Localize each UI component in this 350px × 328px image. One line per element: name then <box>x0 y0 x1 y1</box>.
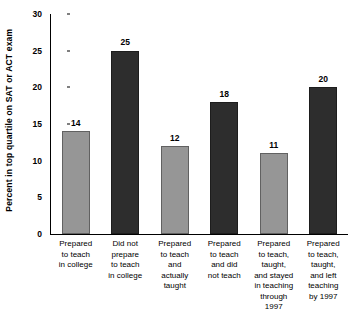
y-axis-tick-label: 0 <box>37 230 42 239</box>
bar-slot: 20 <box>299 14 349 234</box>
y-axis-tick-label: 20 <box>33 83 42 92</box>
bar[interactable] <box>111 51 139 234</box>
y-axis-tick-labels: 051015202530 <box>20 0 46 240</box>
x-axis-category-label: Prepared to teach, taught, and stayed in… <box>249 239 299 313</box>
bar[interactable] <box>260 153 288 234</box>
x-axis-category-label: Prepared to teach in college <box>51 239 101 271</box>
x-axis-category-labels: Prepared to teach in collegeDid not prep… <box>51 239 348 327</box>
bar[interactable] <box>210 102 238 234</box>
bar[interactable] <box>62 131 90 234</box>
bar[interactable] <box>161 146 189 234</box>
y-axis-tick-label: 15 <box>33 120 42 129</box>
bars-layer: 142512181120 <box>51 14 348 234</box>
bar-slot: 18 <box>200 14 250 234</box>
bar-slot: 11 <box>249 14 299 234</box>
bar-value-label: 25 <box>121 38 130 47</box>
y-axis-tick-label: 5 <box>37 193 42 202</box>
y-axis-tick-label: 30 <box>33 10 42 19</box>
bar-slot: 14 <box>51 14 101 234</box>
y-axis-tick-label: 10 <box>33 156 42 165</box>
y-axis-title-text: Percent in top quartile on SAT or ACT ex… <box>5 29 14 212</box>
x-axis-category-label: Prepared to teach and did not teach <box>200 239 250 281</box>
bar-value-label: 18 <box>220 90 229 99</box>
y-axis-tick-label: 25 <box>33 46 42 55</box>
bar-value-label: 14 <box>71 119 80 128</box>
bar-slot: 12 <box>150 14 200 234</box>
y-axis-title: Percent in top quartile on SAT or ACT ex… <box>0 0 18 240</box>
x-axis-category-label: Prepared to teach and actually taught <box>150 239 200 292</box>
bar-value-label: 20 <box>319 75 328 84</box>
bar-value-label: 12 <box>170 134 179 143</box>
bar[interactable] <box>309 87 337 234</box>
x-axis-category-label: Prepared to teach, taught, and left teac… <box>299 239 349 302</box>
bar-slot: 25 <box>101 14 151 234</box>
bar-value-label: 11 <box>269 141 278 150</box>
x-axis-category-label: Did not prepare to teach in college <box>101 239 151 281</box>
bar-chart: Percent in top quartile on SAT or ACT ex… <box>0 0 350 328</box>
